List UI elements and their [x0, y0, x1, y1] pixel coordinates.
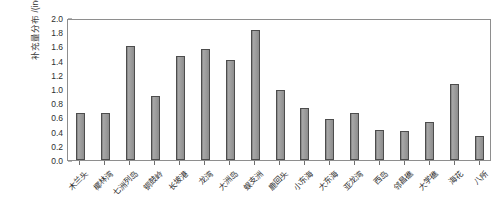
bar-chart: 补充量分布 /(ind./m2) 2.01.81.61.41.21.00.80.… [0, 0, 504, 223]
x-axis-tick-label: 邻昌礁 [390, 168, 414, 192]
bar-series [68, 20, 490, 160]
x-axis-tick-label: 七洲列岛 [110, 168, 140, 198]
x-axis-tick-mark [404, 161, 405, 165]
x-axis-tick-mark [454, 161, 455, 165]
x-axis-tick-mark [204, 161, 205, 165]
y-axis-tick-label: 0.0 [37, 156, 63, 166]
x-axis-tick-mark [379, 161, 380, 165]
x-axis-tick-mark [329, 161, 330, 165]
bar [251, 30, 260, 160]
x-axis-tick-mark [354, 161, 355, 165]
bar [400, 131, 409, 160]
bar [425, 122, 434, 160]
x-axis-tick-mark [79, 161, 80, 165]
y-axis-tick-label: 2.0 [37, 14, 63, 24]
y-axis-tick-label: 1.6 [37, 42, 63, 52]
y-axis-tick-label: 1.0 [37, 85, 63, 95]
y-axis-tick-label: 0.8 [37, 99, 63, 109]
plot-area [67, 19, 491, 161]
x-axis-tick-mark [229, 161, 230, 165]
x-axis-tick-mark [154, 161, 155, 165]
y-axis-tick-label: 0.6 [37, 113, 63, 123]
x-axis-tick-label: 龙湾 [196, 168, 215, 187]
y-axis-tick-label: 1.4 [37, 57, 63, 67]
bar [300, 108, 309, 161]
x-axis-tick-label: 长坡港 [166, 168, 190, 192]
x-axis-tick-label: 木兰头 [66, 168, 90, 192]
bar [126, 46, 135, 160]
bar [201, 49, 210, 160]
x-axis-tick-mark [304, 161, 305, 165]
bar [276, 90, 285, 160]
bar [325, 119, 334, 160]
x-axis-tick-label: 蜈支洲 [240, 168, 264, 192]
x-axis-tick-mark [479, 161, 480, 165]
y-axis-tick-label: 0.2 [37, 142, 63, 152]
x-axis-tick-mark [254, 161, 255, 165]
x-axis-tick-label: 铜鼓岭 [141, 168, 165, 192]
bar [101, 113, 110, 160]
y-axis-tick-label: 0.4 [37, 128, 63, 138]
x-axis-tick-mark [279, 161, 280, 165]
x-axis-tick-mark [429, 161, 430, 165]
x-axis-tick-label: 亚龙湾 [340, 168, 364, 192]
bar [151, 96, 160, 160]
y-axis-tick-label: 1.2 [37, 71, 63, 81]
x-axis-tick-label: 海花 [446, 168, 465, 187]
bar [375, 130, 384, 160]
x-axis-tick-label: 西岛 [371, 168, 390, 187]
bar [475, 136, 484, 161]
x-axis-tick-label: 小东海 [290, 168, 314, 192]
x-axis-tick-label: 八所 [470, 168, 489, 187]
x-axis-tick-mark [179, 161, 180, 165]
x-axis-tick-label: 大洲岛 [216, 168, 240, 192]
x-axis-tick-label: 大学礁 [415, 168, 439, 192]
x-axis-tick-mark [129, 161, 130, 165]
bar [226, 60, 235, 160]
y-axis-tick-label: 1.8 [37, 28, 63, 38]
bar [176, 56, 185, 160]
x-axis-tick-mark [104, 161, 105, 165]
x-axis-tick-label: 大东海 [315, 168, 339, 192]
x-axis-tick-label: 鹿回头 [265, 168, 289, 192]
bar [76, 113, 85, 160]
bar [350, 113, 359, 160]
bar [450, 84, 459, 160]
